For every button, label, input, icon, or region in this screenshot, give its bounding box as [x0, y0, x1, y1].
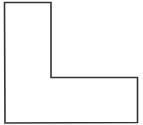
l-shape-diagram: [0, 0, 143, 125]
l-shape-outline: [5, 3, 138, 124]
